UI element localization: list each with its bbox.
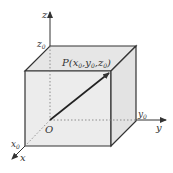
- y-axis-label: y: [155, 122, 162, 133]
- z-axis-label: z: [41, 9, 48, 20]
- z0-label: z0: [36, 39, 46, 50]
- y0-label: y0: [137, 109, 147, 120]
- coordinate-box-diagram: z z0 y0 y x0 x O P(x0,y0,z0): [0, 0, 173, 173]
- x-axis-label: x: [20, 152, 26, 163]
- x0-label: x0: [11, 139, 20, 150]
- origin-label: O: [45, 124, 53, 135]
